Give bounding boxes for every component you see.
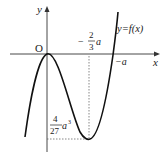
- curve-label: y=f(x): [116, 23, 144, 35]
- xmin-a: a: [96, 36, 101, 47]
- ymin-exponent: 3: [68, 119, 71, 125]
- root-label: −a: [115, 56, 127, 67]
- xmin-denominator: 3: [89, 42, 94, 52]
- origin-label: O: [35, 42, 43, 54]
- y-axis-label: y: [36, 3, 42, 15]
- cubic-graph: y x O y=f(x) − 2 3 a −a 4 27 a 3: [0, 0, 167, 157]
- y-axis-arrow: [45, 6, 50, 12]
- xmin-numerator: 2: [89, 30, 94, 40]
- curve-f: [25, 12, 118, 139]
- ymin-numerator: 4: [53, 114, 58, 124]
- xmin-minus: −: [78, 36, 84, 47]
- x-axis-label: x: [152, 56, 158, 68]
- ymin-denominator: 27: [50, 126, 60, 136]
- ymin-a: a: [62, 120, 67, 131]
